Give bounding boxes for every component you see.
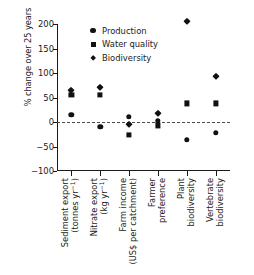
data-point <box>184 17 190 23</box>
x-category-label-line: preference <box>158 178 168 223</box>
data-point <box>213 130 218 135</box>
data-point <box>97 83 103 89</box>
y-tick-label: 200 <box>38 19 54 29</box>
data-point <box>213 101 218 106</box>
x-axis-line <box>57 170 230 171</box>
zero-reference-line <box>57 122 230 123</box>
plot-area: 200150100500−50−100 <box>57 24 230 171</box>
x-tick-mark <box>216 171 217 176</box>
y-tick-label: 50 <box>43 93 54 103</box>
data-point <box>126 114 131 119</box>
data-point <box>126 132 131 137</box>
y-tick-label: 100 <box>38 68 54 78</box>
data-point <box>69 92 74 97</box>
x-category-label-line: biodiversity <box>216 178 226 226</box>
y-axis-title: % change over 25 years <box>23 0 33 132</box>
x-tick-mark <box>187 171 188 176</box>
y-axis-line <box>57 24 58 171</box>
data-point <box>126 121 132 127</box>
data-point <box>98 92 103 97</box>
x-category-label-line: biodiversity <box>187 178 197 226</box>
data-point <box>98 124 103 129</box>
data-point <box>69 112 74 117</box>
x-category-label-line: Vertebrate <box>206 178 216 222</box>
x-tick-mark <box>158 171 159 176</box>
x-tick-mark <box>129 171 130 176</box>
data-point <box>212 73 218 79</box>
y-tick-label: −50 <box>36 142 54 152</box>
y-tick-label: 150 <box>38 44 54 54</box>
x-tick-mark <box>100 171 101 176</box>
x-category-label-line: (US$ per catchment) <box>129 178 139 265</box>
y-tick-label: 0 <box>49 117 54 127</box>
x-category-label-line: Plant <box>177 178 187 199</box>
data-point <box>155 123 160 128</box>
x-category-label-line: (kg yr−1) <box>100 178 110 215</box>
chart-figure: % change over 25 years ProductionWater q… <box>0 0 254 275</box>
x-tick-mark <box>71 171 72 176</box>
data-point <box>155 110 161 116</box>
data-point <box>184 101 189 106</box>
y-tick-label: −100 <box>31 166 54 176</box>
data-point <box>184 137 189 142</box>
x-category-label-line: (tonnes yr−1) <box>71 178 81 233</box>
